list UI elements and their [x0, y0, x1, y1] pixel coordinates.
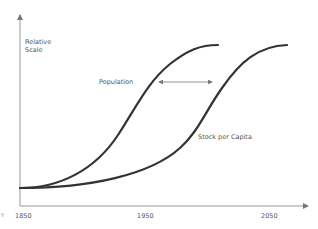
x-tick-2050: 2050 [261, 212, 278, 220]
x-tick-1850: 1850 [15, 212, 32, 220]
population-label: Population [99, 78, 133, 86]
chart-canvas [0, 0, 318, 229]
y-axis-label: Relative Scale [25, 38, 51, 55]
x-axis-label-partial: Y [1, 212, 4, 219]
stock-per-capita-label: Stock per Capita [198, 133, 252, 141]
population-curve [20, 45, 218, 188]
y-axis-label-line2: Scale [25, 46, 51, 54]
y-axis-label-line1: Relative [25, 38, 51, 46]
stock-per-capita-curve [20, 45, 287, 188]
x-tick-1950: 1950 [137, 212, 154, 220]
